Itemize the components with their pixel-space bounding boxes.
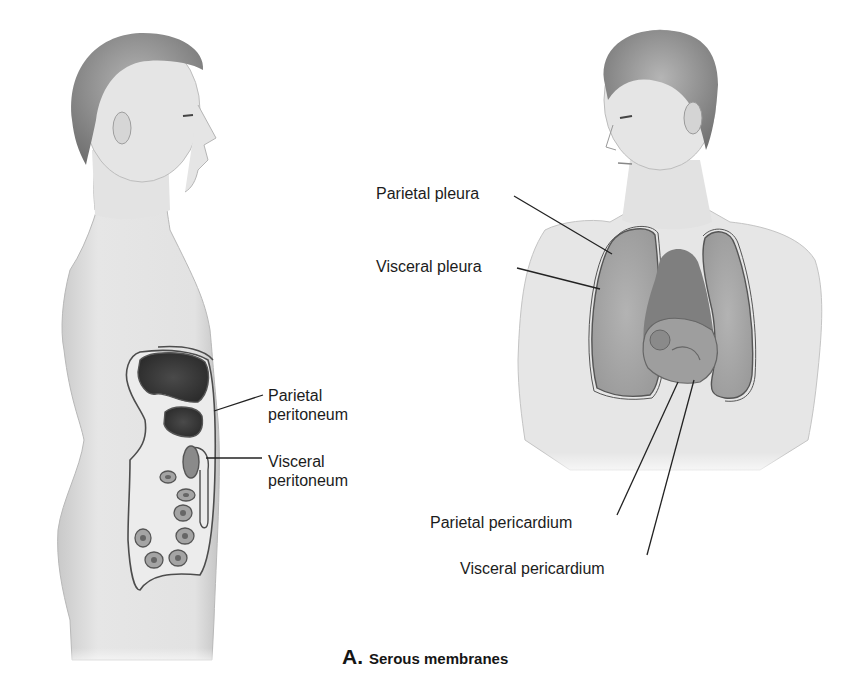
label-visceral-peritoneum: Visceral peritoneum (268, 452, 348, 490)
label-line: peritoneum (268, 405, 348, 424)
label-line: Parietal (268, 386, 348, 405)
caption-title: Serous membranes (369, 650, 508, 667)
caption-letter: A. (342, 645, 363, 668)
label-visceral-pleura: Visceral pleura (376, 257, 482, 276)
figure-caption: A.Serous membranes (342, 645, 508, 669)
anatomy-illustration (0, 0, 868, 698)
serous-membranes-figure: Parietal peritoneum Visceral peritoneum … (0, 0, 868, 698)
label-line: peritoneum (268, 471, 348, 490)
label-visceral-pericardium: Visceral pericardium (460, 559, 605, 578)
side-view-figure (40, 33, 240, 670)
label-parietal-pericardium: Parietal pericardium (430, 513, 572, 532)
label-line: Visceral (268, 452, 348, 471)
label-parietal-peritoneum: Parietal peritoneum (268, 386, 348, 424)
front-view-figure (500, 30, 840, 480)
label-parietal-pleura: Parietal pleura (376, 184, 479, 203)
